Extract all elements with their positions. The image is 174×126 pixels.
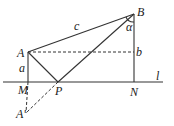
label-line-l: l	[156, 69, 160, 83]
label-a-point: A	[16, 46, 25, 60]
label-a-prime-point: A'	[15, 107, 26, 121]
segment-pb	[58, 14, 134, 82]
label-a: a	[19, 61, 25, 75]
label-m-point: M	[17, 83, 29, 97]
label-n-point: N	[129, 85, 139, 99]
label-c: c	[74, 19, 80, 33]
label-p-point: P	[54, 84, 63, 98]
label-alpha: α	[126, 20, 133, 34]
label-b: b	[136, 45, 142, 59]
label-b-point: B	[137, 5, 145, 19]
geometry-diagram: B A M P N A' c a b α l	[0, 0, 174, 126]
segment-ap	[28, 52, 58, 82]
segment-ab	[28, 14, 134, 52]
dashed-pa-prime	[26, 82, 58, 113]
